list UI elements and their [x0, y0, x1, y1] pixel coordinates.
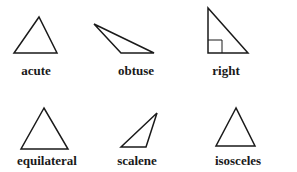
scalene-triangle — [121, 113, 157, 147]
right-label: right — [212, 64, 239, 77]
scalene-label: scalene — [117, 154, 157, 167]
equilateral-label: equilateral — [17, 154, 77, 167]
triangle-types-diagram — [0, 0, 297, 172]
acute-label: acute — [21, 64, 51, 77]
obtuse-triangle — [94, 24, 154, 53]
right-angle-marker — [208, 40, 222, 53]
acute-triangle — [14, 17, 57, 53]
right-triangle — [208, 8, 248, 53]
isosceles-label: isosceles — [215, 154, 261, 167]
obtuse-label: obtuse — [118, 64, 154, 77]
isosceles-triangle — [216, 108, 255, 146]
equilateral-triangle — [21, 108, 68, 149]
